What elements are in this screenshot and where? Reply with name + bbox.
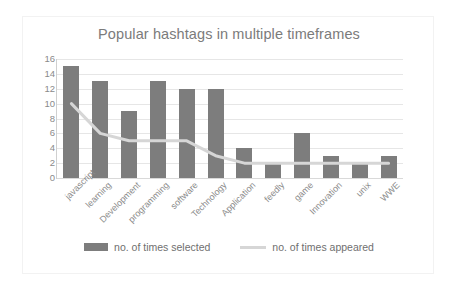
y-axis-tick-label: 2: [35, 158, 55, 168]
bar: [236, 148, 252, 178]
y-axis-tick-label: 14: [35, 69, 55, 79]
bar: [265, 163, 281, 178]
gridline: [57, 148, 403, 149]
bar: [150, 81, 166, 178]
y-axis-tick-label: 10: [35, 99, 55, 109]
y-axis-tick-labels: 1614121086420: [29, 59, 55, 178]
gridline: [57, 89, 403, 90]
legend-item-line: no. of times appeared: [240, 241, 374, 253]
chart-title: Popular hashtags in multiple timeframes: [23, 26, 435, 42]
x-axis-tick-label: javascript: [63, 180, 85, 202]
bar: [63, 66, 79, 178]
legend-line-swatch-icon: [240, 246, 266, 249]
legend-item-bar: no. of times selected: [84, 241, 210, 253]
chart-legend: no. of times selected no. of times appea…: [23, 241, 435, 253]
bar: [352, 163, 368, 178]
bar: [179, 89, 195, 178]
gridline: [57, 104, 403, 105]
gridline: [57, 59, 403, 60]
gridline: [57, 74, 403, 75]
y-axis-tick-label: 6: [35, 129, 55, 139]
y-axis-tick-label: 4: [35, 144, 55, 154]
gridline: [57, 178, 403, 179]
gridline: [57, 133, 403, 134]
x-axis-tick-labels: javascriptlearningDevelopmentprogramming…: [57, 180, 403, 238]
bar: [208, 89, 224, 178]
legend-label-bar: no. of times selected: [114, 241, 210, 253]
legend-label-line: no. of times appeared: [272, 241, 374, 253]
chart-container: Popular hashtags in multiple timeframes …: [22, 16, 434, 274]
y-axis-tick-label: 0: [35, 173, 55, 183]
bar: [92, 81, 108, 178]
y-axis-tick-label: 16: [35, 54, 55, 64]
plot-area: [57, 59, 403, 178]
y-axis-tick-label: 12: [35, 84, 55, 94]
gridline: [57, 119, 403, 120]
bar: [294, 133, 310, 178]
bar: [121, 111, 137, 178]
bar: [323, 156, 339, 178]
bar: [381, 156, 397, 178]
legend-bar-swatch-icon: [84, 243, 108, 251]
y-axis-tick-label: 8: [35, 114, 55, 124]
